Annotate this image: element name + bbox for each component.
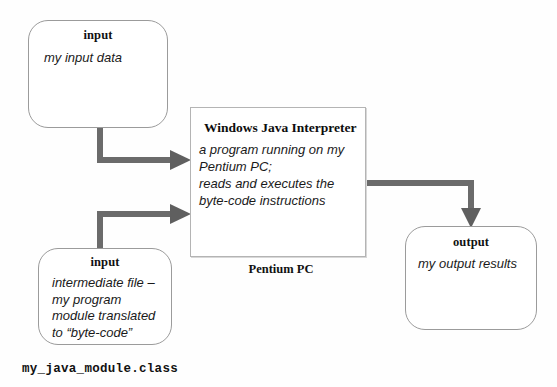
arrow-input-top-to-interpreter — [100, 128, 191, 170]
node-input-bottom-title: input — [39, 255, 171, 270]
node-interpreter-body: a program running on my Pentium PC; read… — [199, 141, 365, 209]
node-interpreter-title: Windows Java Interpreter — [204, 120, 365, 136]
node-interpreter-body-line4: byte-code instructions — [199, 192, 365, 209]
node-input-top[interactable]: input my input data — [28, 20, 168, 128]
arrow-interpreter-to-output — [366, 183, 481, 228]
node-interpreter[interactable]: Windows Java Interpreter a program runni… — [190, 107, 366, 257]
caption-pentium-pc: Pentium PC — [226, 262, 336, 277]
node-output[interactable]: output my output results — [405, 226, 537, 330]
node-input-top-title: input — [29, 28, 167, 43]
diagram-canvas: input my input data Windows Java Interpr… — [0, 0, 557, 387]
arrow-input-bottom-to-interpreter — [100, 204, 191, 250]
node-interpreter-body-line3: reads and executes the — [199, 175, 365, 192]
node-output-title: output — [406, 235, 536, 250]
caption-class-file: my_java_module.class — [22, 362, 178, 376]
node-input-top-body: my input data — [44, 50, 167, 67]
node-input-bottom[interactable]: input intermediate file – my program mod… — [38, 248, 172, 345]
node-interpreter-body-line2: Pentium PC; — [199, 158, 365, 175]
node-output-body: my output results — [418, 256, 536, 273]
node-input-bottom-body: intermediate file – my program module tr… — [52, 275, 171, 341]
node-interpreter-body-line1: a program running on my — [199, 141, 365, 158]
